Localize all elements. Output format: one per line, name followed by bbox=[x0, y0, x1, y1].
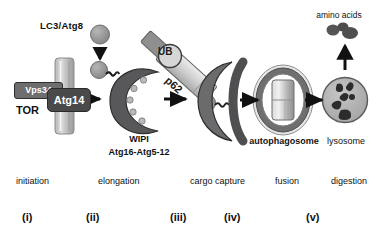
label-atg14: Atg14 bbox=[47, 88, 91, 112]
label-wipi: WIPI bbox=[104, 134, 174, 144]
label-lc3-atg8: LC3/Atg8 bbox=[40, 20, 83, 31]
autophagosome bbox=[253, 65, 313, 135]
stage-numeral-iii: (iii) bbox=[170, 211, 187, 223]
stage-name-fusion: fusion bbox=[275, 176, 299, 186]
stage-numeral-iv: (iv) bbox=[224, 211, 241, 223]
phagophore-crescent bbox=[106, 69, 158, 134]
stage-name-initiation: initiation bbox=[16, 176, 49, 186]
label-lysosome: lysosome bbox=[318, 136, 374, 146]
stage-numeral-ii: (ii) bbox=[86, 211, 99, 223]
figure-canvas: LC3/Atg8 Vps34 Atg14 TOR WIPI Atg16-Atg5… bbox=[0, 0, 387, 243]
stage-name-digestion: digestion bbox=[331, 176, 367, 186]
stage-name-cargo-capture: cargo capture bbox=[190, 176, 245, 186]
lc3-atg8-free-ball bbox=[91, 25, 110, 44]
stage-numeral-i: (i) bbox=[22, 211, 32, 223]
lc3-conjugated bbox=[91, 62, 120, 79]
diagram-graphics bbox=[0, 0, 387, 243]
stage-name-elongation: elongation bbox=[98, 176, 140, 186]
phagophore-crescent-cargo bbox=[198, 62, 243, 141]
label-ub: UB bbox=[158, 46, 172, 57]
amino-acid-particles bbox=[327, 23, 359, 40]
lysosome bbox=[323, 78, 368, 123]
label-autophagosome: autophagosome bbox=[245, 136, 323, 146]
label-atg16-atg5-12: Atg16-Atg5-12 bbox=[88, 147, 190, 157]
label-amino-acids: amino acids bbox=[300, 10, 378, 20]
stage-numeral-v: (v) bbox=[306, 211, 319, 223]
label-tor: TOR bbox=[16, 104, 39, 116]
